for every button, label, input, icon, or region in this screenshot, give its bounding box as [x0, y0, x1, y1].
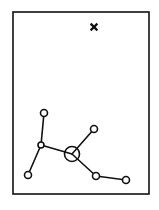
- diagram-canvas: [0, 0, 159, 210]
- node-f-circle-icon: [123, 177, 130, 184]
- node-b-circle-icon: [38, 142, 44, 148]
- x-marker-icon: [91, 24, 96, 29]
- edge-A-B: [41, 113, 44, 145]
- edge-B-H: [41, 145, 72, 154]
- edge-H-D: [72, 129, 94, 154]
- edge-H-E: [72, 154, 96, 176]
- diagram-frame: [13, 12, 149, 194]
- node-a-circle-icon: [41, 110, 48, 117]
- edge-E-F: [96, 176, 126, 180]
- node-c-circle-icon: [25, 172, 32, 179]
- nodes-layer: [25, 110, 130, 184]
- edge-B-C: [28, 145, 41, 175]
- node-e-circle-icon: [93, 173, 100, 180]
- node-d-circle-icon: [91, 126, 98, 133]
